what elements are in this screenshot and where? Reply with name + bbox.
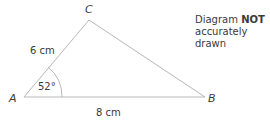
vertex-label-b: B <box>208 93 216 104</box>
note-suffix: accurately drawn <box>195 26 247 49</box>
angle-label-a: 52° <box>38 82 56 92</box>
note-prefix: Diagram <box>195 14 238 25</box>
accuracy-note: Diagram NOT accurately drawn <box>195 14 270 50</box>
vertex-label-c: C <box>85 4 93 15</box>
side-label-ac: 6 cm <box>30 46 55 56</box>
side-label-ab: 8 cm <box>96 108 121 118</box>
note-emphasis: NOT <box>241 14 265 25</box>
vertex-label-a: A <box>9 93 17 104</box>
